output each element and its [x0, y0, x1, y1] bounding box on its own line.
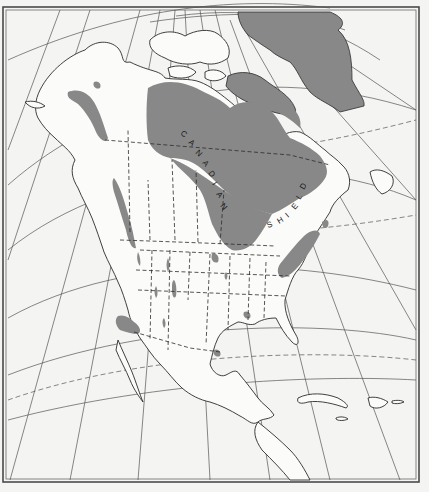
landmasses: [25, 12, 404, 480]
map-figure: C A N A D I A N S H I E L D: [0, 0, 429, 492]
map-canvas: C A N A D I A N S H I E L D: [0, 0, 429, 492]
central-america: [255, 422, 310, 480]
arctic-islands: [150, 30, 230, 64]
cuba: [298, 394, 348, 408]
hispaniola: [368, 397, 388, 408]
